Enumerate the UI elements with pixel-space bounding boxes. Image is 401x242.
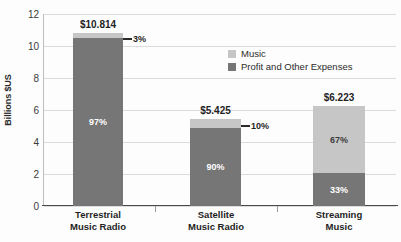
callout-leader-line bbox=[123, 38, 132, 40]
callout-label: 3% bbox=[133, 34, 146, 44]
bar-total-label: $5.425 bbox=[190, 105, 241, 116]
x-label-line-1: Terrestrial bbox=[52, 209, 144, 221]
x-label-line-2: Music bbox=[293, 221, 385, 233]
bar-segment-label-music: 67% bbox=[330, 135, 348, 145]
bar-segment-profit[interactable]: 97% bbox=[73, 38, 123, 206]
y-tick-label: 6 bbox=[33, 105, 39, 116]
bar-streaming-music[interactable]: $6.223 67% 33% bbox=[313, 106, 365, 206]
x-label-terrestrial-music-radio: Terrestrial Music Radio bbox=[52, 209, 144, 233]
stacked-bar-chart: Billions $US 12 10 8 6 4 2 0 $10.814 97% bbox=[0, 0, 401, 242]
x-label-line-2: Music Radio bbox=[170, 221, 262, 233]
bar-segment-label-profit: 33% bbox=[330, 185, 348, 195]
bar-terrestrial-music-radio[interactable]: $10.814 97% 3% bbox=[73, 33, 123, 206]
bar-callout-music: 3% bbox=[123, 34, 146, 44]
chart-legend: Music Profit and Other Expenses bbox=[228, 47, 352, 73]
bar-total-label: $6.223 bbox=[313, 92, 365, 103]
callout-label: 10% bbox=[251, 121, 269, 131]
callout-leader-line bbox=[241, 125, 250, 127]
y-tick-label: 10 bbox=[28, 41, 39, 52]
x-label-line-1: Streaming bbox=[293, 209, 385, 221]
bar-segment-label-profit: 97% bbox=[89, 117, 107, 127]
bar-segment-music[interactable]: 67% bbox=[313, 106, 365, 173]
legend-item-profit-and-other-expenses[interactable]: Profit and Other Expenses bbox=[228, 60, 352, 73]
y-axis-tick-labels: 12 10 8 6 4 2 0 bbox=[16, 0, 43, 206]
bar-segment-label-profit: 90% bbox=[206, 162, 224, 172]
legend-label: Profit and Other Expenses bbox=[241, 61, 352, 72]
x-label-line-2: Music Radio bbox=[52, 221, 144, 233]
bar-segment-profit[interactable]: 90% bbox=[190, 128, 241, 206]
x-axis-category-labels: Terrestrial Music Radio Satellite Music … bbox=[44, 209, 398, 242]
x-label-satellite-music-radio: Satellite Music Radio bbox=[170, 209, 262, 233]
bar-satellite-music-radio[interactable]: $5.425 90% 10% bbox=[190, 119, 241, 206]
x-label-line-1: Satellite bbox=[170, 209, 262, 221]
plot-area: $10.814 97% 3% $5.425 90% bbox=[44, 14, 396, 206]
legend-item-music[interactable]: Music bbox=[228, 47, 352, 60]
bar-segment-music[interactable] bbox=[190, 119, 241, 128]
gridline bbox=[44, 206, 396, 207]
y-axis-title-text: Billions $US bbox=[3, 74, 13, 125]
bar-segment-profit[interactable]: 33% bbox=[313, 173, 365, 206]
bar-total-label: $10.814 bbox=[73, 19, 123, 30]
y-axis-title: Billions $US bbox=[0, 0, 16, 200]
y-tick-label: 2 bbox=[33, 169, 39, 180]
y-tick-label: 8 bbox=[33, 73, 39, 84]
gridline bbox=[44, 14, 396, 15]
legend-swatch-icon bbox=[228, 50, 236, 58]
legend-label: Music bbox=[241, 48, 266, 59]
y-tick-label: 0 bbox=[33, 201, 39, 212]
legend-swatch-icon bbox=[228, 63, 236, 71]
bar-callout-music: 10% bbox=[241, 121, 269, 131]
x-label-streaming-music: Streaming Music bbox=[293, 209, 385, 233]
y-tick-label: 4 bbox=[33, 137, 39, 148]
y-tick-label: 12 bbox=[28, 9, 39, 20]
